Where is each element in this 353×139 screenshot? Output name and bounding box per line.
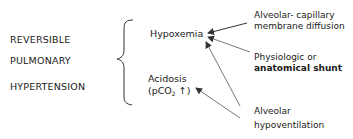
effect-acidosis: Acidosis — [148, 74, 187, 84]
cause-shunt: Physiologic or anatomical shunt — [254, 52, 342, 74]
cause-diffusion: Alveolar- capillary membrane diffusion — [254, 10, 345, 32]
cause-hypoventilation: Alveolar hypoventilation — [254, 104, 324, 132]
cause-hypoventilation-line-2: hypoventilation — [254, 118, 324, 132]
pco2-label: (pCO — [148, 85, 172, 96]
arrow-shunt-to-hypoxemia — [208, 37, 250, 52]
effect-acidosis-detail: (pCO2 ↑) — [148, 86, 190, 97]
cause-diffusion-line-2: membrane diffusion — [254, 21, 345, 32]
arrow-hypoventilation-to-acidosis — [196, 88, 240, 118]
arrow-hypoventilation-to-hypoxemia — [206, 42, 240, 106]
cause-diffusion-line-1: Alveolar- capillary — [254, 10, 345, 21]
cause-shunt-line-1: Physiologic or — [254, 52, 342, 63]
curly-brace-icon — [117, 20, 133, 105]
effect-hypoxemia: Hypoxemia — [150, 29, 203, 39]
arrow-diffusion-to-hypoxemia — [208, 23, 247, 33]
cause-shunt-line-2: anatomical shunt — [254, 63, 342, 74]
increase-arrow-icon: ↑) — [176, 85, 191, 96]
cause-hypoventilation-line-1: Alveolar — [254, 104, 324, 118]
